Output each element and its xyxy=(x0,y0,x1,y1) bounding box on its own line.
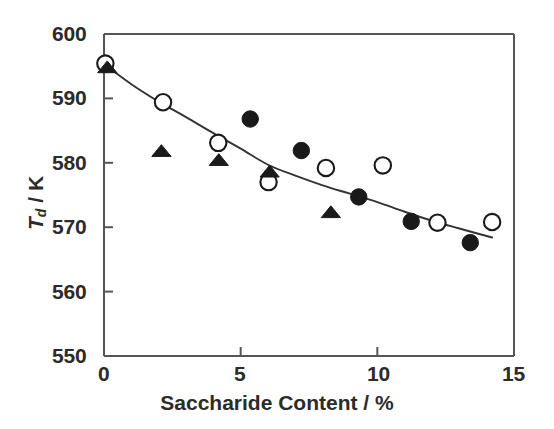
y-tick-label-600: 600 xyxy=(52,22,86,46)
x-tick-label-5: 5 xyxy=(234,362,245,386)
y-tick-label-590: 590 xyxy=(52,86,86,110)
x-axis-title: Saccharide Content / % xyxy=(0,391,554,415)
marker-open-circle xyxy=(484,214,500,230)
y-tick-label-580: 580 xyxy=(52,151,86,175)
data-series-markers xyxy=(97,55,500,250)
marker-open-circle xyxy=(429,214,445,230)
x-tick-label-10: 10 xyxy=(367,362,390,386)
marker-open-circle xyxy=(318,160,334,176)
marker-open-circle xyxy=(210,135,226,151)
x-axis-ticks xyxy=(241,347,378,356)
y-axis-ticks xyxy=(104,98,113,291)
marker-filled-circle xyxy=(351,189,367,205)
marker-open-circle xyxy=(375,157,391,173)
marker-filled-triangle xyxy=(209,154,228,166)
marker-filled-triangle xyxy=(152,145,171,157)
plot-frame xyxy=(104,34,514,356)
y-axis-title-symbol: T xyxy=(24,217,47,230)
chart-figure: 600 590 580 570 560 550 0 5 10 15 Td / K… xyxy=(0,0,554,429)
marker-filled-circle xyxy=(403,213,419,229)
y-axis-title-subscript: d xyxy=(33,209,49,218)
y-axis-title: Td / K xyxy=(24,176,48,230)
y-tick-label-560: 560 xyxy=(52,280,86,304)
marker-filled-triangle xyxy=(260,165,279,177)
marker-filled-circle xyxy=(462,234,478,250)
marker-filled-triangle xyxy=(321,206,340,218)
marker-filled-circle xyxy=(293,142,309,158)
x-tick-label-15: 15 xyxy=(502,362,525,386)
y-axis-title-unit: / K xyxy=(24,176,47,209)
y-tick-label-550: 550 xyxy=(52,344,86,368)
y-tick-label-570: 570 xyxy=(52,215,86,239)
marker-open-circle xyxy=(155,94,171,110)
x-tick-label-0: 0 xyxy=(98,362,109,386)
marker-filled-circle xyxy=(242,111,258,127)
